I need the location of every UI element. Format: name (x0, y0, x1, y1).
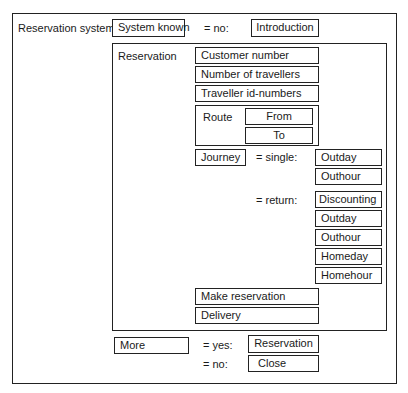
route-to-box[interactable]: To (245, 127, 313, 144)
system-known-no-condition: = no: (204, 21, 229, 35)
reservation-label: Reservation (118, 49, 177, 63)
route-label: Route (203, 110, 232, 124)
return-homehour-box[interactable]: Homehour (315, 267, 382, 284)
number-of-travellers-box[interactable]: Number of travellers (195, 66, 319, 83)
more-yes-reservation-box[interactable]: Reservation (248, 335, 319, 353)
more-no-close-box[interactable]: Close (248, 355, 319, 372)
journey-return-condition: = return: (256, 193, 297, 207)
more-no-condition: = no: (203, 357, 228, 371)
root-label: Reservation system (18, 21, 115, 35)
more-yes-condition: = yes: (203, 338, 233, 352)
return-outday-box[interactable]: Outday (315, 210, 382, 227)
return-outhour-box[interactable]: Outhour (315, 229, 382, 246)
single-outhour-box[interactable]: Outhour (315, 168, 382, 185)
journey-box[interactable]: Journey (195, 149, 246, 166)
introduction-box[interactable]: Introduction (251, 19, 319, 37)
return-homeday-box[interactable]: Homeday (315, 248, 382, 265)
system-known-box[interactable]: System known (112, 19, 185, 37)
return-discounting-box[interactable]: Discounting (315, 191, 382, 208)
customer-number-box[interactable]: Customer number (195, 47, 319, 64)
delivery-box[interactable]: Delivery (195, 307, 319, 324)
traveller-id-numbers-box[interactable]: Traveller id-numbers (195, 85, 319, 102)
make-reservation-box[interactable]: Make reservation (195, 288, 319, 305)
route-from-box[interactable]: From (245, 108, 313, 125)
single-outday-box[interactable]: Outday (315, 149, 382, 166)
more-box[interactable]: More (114, 337, 189, 354)
journey-single-condition: = single: (256, 150, 297, 164)
